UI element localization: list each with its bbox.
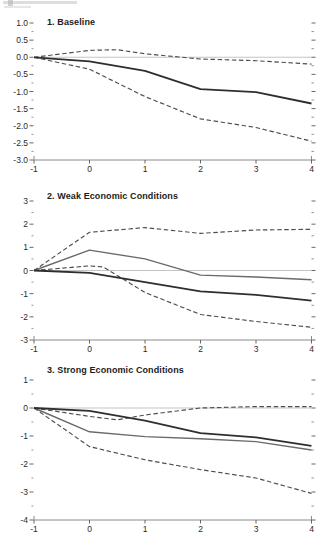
x-tick-label: 0 [87, 524, 92, 534]
weak-conditions-chart: -1012343210-1-2-3 [0, 188, 321, 362]
y-tick-label: 0.5 [16, 35, 28, 45]
y-tick-label: -1 [20, 431, 28, 441]
point-estimate-line [34, 57, 312, 103]
x-tick-label: 4 [309, 344, 314, 354]
lower-confidence-band-line [34, 57, 312, 141]
x-tick-label: 1 [143, 524, 148, 534]
panel-title: 3. Strong Economic Conditions [47, 365, 184, 375]
x-tick-label: -1 [30, 164, 38, 174]
x-tick-label: 0 [87, 164, 92, 174]
x-tick-label: -1 [30, 344, 38, 354]
y-tick-label: -2 [20, 459, 28, 469]
y-tick-label: 1 [23, 242, 28, 252]
upper-confidence-band-line [34, 228, 312, 271]
strong-conditions-response-line [34, 408, 312, 450]
y-tick-label: 2 [23, 219, 28, 229]
y-tick-label: 3 [23, 196, 28, 206]
x-tick-label: 4 [309, 164, 314, 174]
x-tick-label: 2 [198, 344, 203, 354]
panel-title: 1. Baseline [47, 17, 95, 27]
y-tick-label: -2.5 [13, 138, 28, 148]
y-tick-label: -2 [20, 312, 28, 322]
y-tick-label: -3.0 [13, 155, 28, 165]
x-tick-label: 4 [309, 524, 314, 534]
y-tick-label: -3 [20, 335, 28, 345]
baseline-overlay-line [34, 408, 312, 446]
y-tick-label: 1 [23, 375, 28, 385]
y-tick-label: -1.0 [13, 87, 28, 97]
figure: -1012341.00.50.0-0.5-1.0-1.5-2.0-2.5-3.0… [0, 0, 321, 534]
x-tick-label: 3 [254, 164, 259, 174]
x-tick-label: 2 [198, 524, 203, 534]
upper-confidence-band-line [34, 407, 312, 420]
x-tick-label: -1 [30, 524, 38, 534]
weak-conditions-response-line [34, 250, 312, 280]
y-tick-label: -4 [20, 515, 28, 525]
panel-weak-economic-conditions: -1012343210-1-2-3 2. Weak Economic Condi… [0, 188, 321, 362]
y-tick-label: -0.5 [13, 69, 28, 79]
y-tick-label: 0.0 [16, 52, 28, 62]
strong-conditions-chart: -10123410-1-2-3-4 [0, 362, 321, 534]
x-tick-label: 3 [254, 524, 259, 534]
x-tick-label: 0 [87, 344, 92, 354]
y-tick-label: -3 [20, 487, 28, 497]
panel-strong-economic-conditions: -10123410-1-2-3-4 3. Strong Economic Con… [0, 362, 321, 534]
y-tick-label: -1.5 [13, 104, 28, 114]
baseline-overlay-line [34, 271, 312, 301]
y-tick-label: 0 [23, 266, 28, 276]
panel-baseline: -1012341.00.50.0-0.5-1.0-1.5-2.0-2.5-3.0… [0, 14, 321, 188]
lower-confidence-band-line [34, 408, 312, 493]
baseline-chart: -1012341.00.50.0-0.5-1.0-1.5-2.0-2.5-3.0 [0, 14, 321, 188]
x-tick-label: 1 [143, 344, 148, 354]
x-tick-label: 3 [254, 344, 259, 354]
cropped-text-remnant [3, 1, 77, 4]
y-tick-label: 1.0 [16, 18, 28, 28]
y-tick-label: -2.0 [13, 121, 28, 131]
y-tick-label: -1 [20, 289, 28, 299]
x-tick-label: 2 [198, 164, 203, 174]
y-tick-label: 0 [23, 403, 28, 413]
cropped-text-remnant [4, 6, 31, 8]
panel-title: 2. Weak Economic Conditions [47, 191, 178, 201]
x-tick-label: 1 [143, 164, 148, 174]
panel-stack: -1012341.00.50.0-0.5-1.0-1.5-2.0-2.5-3.0… [0, 14, 321, 534]
